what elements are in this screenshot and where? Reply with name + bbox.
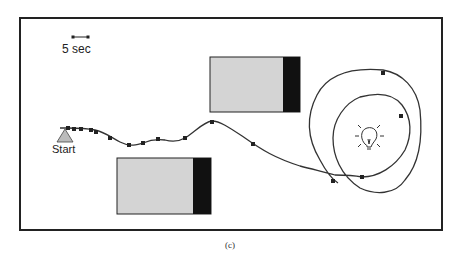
- scale-bar: [72, 36, 90, 39]
- figure-caption: (c): [225, 240, 235, 250]
- obstacle-bottom: [117, 158, 211, 214]
- scale-bar-label: 5 sec: [62, 42, 91, 56]
- obstacle-top: [210, 57, 300, 112]
- lightbulb-icon: [355, 125, 384, 149]
- start-triangle-icon: [57, 129, 73, 142]
- start-label: Start: [52, 143, 75, 155]
- trajectory-diagram: 5 sec Start: [0, 0, 458, 261]
